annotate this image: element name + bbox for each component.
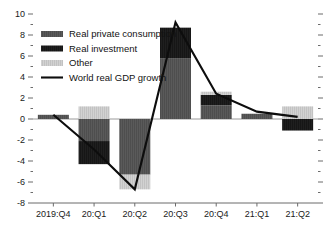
legend-swatch-bar	[41, 60, 63, 66]
y-axis-tick-label: 4	[20, 72, 25, 82]
chart-container: 1086420-2-4-6-8 2019:Q420:Q120:Q220:Q320…	[0, 0, 334, 230]
x-axis-tick-label: 20:Q1	[82, 209, 107, 219]
y-axis-tick-label: -8	[17, 198, 25, 208]
x-axis-tick-label: 21:Q1	[245, 209, 270, 219]
chart-plot-area: 1086420-2-4-6-8 2019:Q420:Q120:Q220:Q320…	[0, 0, 334, 230]
x-axis-tick-label: 2019:Q4	[36, 209, 71, 219]
y-axis-tick-labels: 1086420-2-4-6-8	[15, 9, 25, 208]
y-axis-tick-label: -2	[17, 135, 25, 145]
y-axis-tick-label: -6	[17, 177, 25, 187]
x-axis-tick-label: 20:Q2	[123, 209, 148, 219]
x-axis-tick-label: 20:Q3	[163, 209, 188, 219]
legend-swatch-bar	[41, 31, 63, 37]
y-axis-tick-label: 8	[20, 30, 25, 40]
chart-legend: Real private consumptionReal investmentO…	[41, 28, 176, 83]
x-axis-tick-label: 20:Q4	[204, 209, 229, 219]
y-axis-tick-label: 10	[15, 9, 25, 19]
y-axis-tick-label: -4	[17, 156, 25, 166]
x-axis-tick-labels: 2019:Q420:Q120:Q220:Q320:Q421:Q121:Q2	[36, 209, 310, 219]
legend-label: Real investment	[69, 43, 137, 54]
x-axis-tick-label: 21:Q2	[285, 209, 310, 219]
y-axis-tick-label: 2	[20, 93, 25, 103]
y-axis-tick-label: 0	[20, 114, 25, 124]
legend-label: Real private consumption	[69, 28, 176, 39]
y-axis-tick-label: 6	[20, 51, 25, 61]
legend-label: World real GDP growth	[69, 72, 166, 83]
legend-swatch-bar	[41, 46, 63, 52]
legend-label: Other	[69, 57, 93, 68]
